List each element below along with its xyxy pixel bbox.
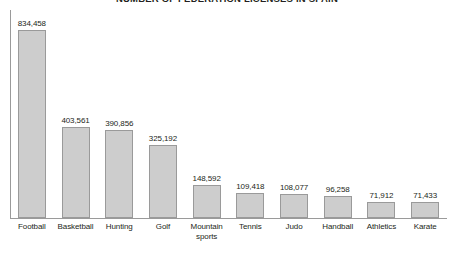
bar-group: 834,458: [10, 8, 54, 218]
x-axis-label-line: Football: [10, 222, 54, 232]
x-axis-label: Tennis: [229, 222, 273, 232]
x-axis-label-line: sports: [185, 232, 229, 242]
bar: [149, 145, 177, 218]
x-axis-label: Judo: [272, 222, 316, 232]
bar-series: 834,458403,561390,856325,192148,592109,4…: [10, 8, 447, 219]
x-axis-label: Athletics: [360, 222, 404, 232]
plot-area: 834,458403,561390,856325,192148,592109,4…: [0, 8, 454, 219]
x-axis-label-line: Golf: [141, 222, 185, 232]
bar-group: 71,912: [360, 8, 404, 218]
bar: [411, 202, 439, 218]
bar-value-label: 109,418: [236, 182, 264, 191]
bar-value-label: 96,258: [326, 185, 350, 194]
x-axis-label: Handball: [316, 222, 360, 232]
bar-value-label: 108,077: [280, 183, 308, 192]
bar-value-label: 71,912: [370, 191, 394, 200]
x-axis-label-line: Judo: [272, 222, 316, 232]
x-axis-label-line: Mountain: [185, 222, 229, 232]
chart-title: NUMBER OF FEDERATION LICENSES IN SPAIN: [0, 0, 454, 2]
bar: [236, 193, 264, 218]
x-axis-category-labels: FootballBasketballHuntingGolfMountainspo…: [10, 222, 447, 252]
bar-group: 390,856: [97, 8, 141, 218]
bar-value-label: 148,592: [193, 174, 221, 183]
bar-value-label: 390,856: [105, 119, 133, 128]
x-axis-label-line: Tennis: [229, 222, 273, 232]
bar-group: 148,592: [185, 8, 229, 218]
bar-group: 325,192: [141, 8, 185, 218]
x-axis-label-line: Basketball: [54, 222, 98, 232]
bar: [193, 185, 221, 218]
x-axis-label-line: Hunting: [97, 222, 141, 232]
x-axis-label: Hunting: [97, 222, 141, 232]
x-axis-label-line: Athletics: [360, 222, 404, 232]
x-axis-label: Basketball: [54, 222, 98, 232]
x-axis-label: Football: [10, 222, 54, 232]
bar-group: 108,077: [272, 8, 316, 218]
bar-value-label: 325,192: [149, 134, 177, 143]
bar: [105, 130, 133, 218]
bar: [62, 127, 90, 218]
bar-chart: NUMBER OF FEDERATION LICENSES IN SPAIN 8…: [0, 0, 454, 255]
bar-group: 96,258: [316, 8, 360, 218]
bar-group: 403,561: [54, 8, 98, 218]
x-axis-label-line: Handball: [316, 222, 360, 232]
x-axis-label: Mountainsports: [185, 222, 229, 241]
bar: [324, 196, 352, 218]
bar: [280, 194, 308, 218]
bar: [18, 30, 46, 218]
bar-value-label: 834,458: [18, 19, 46, 28]
bar-value-label: 403,561: [61, 116, 89, 125]
bar-value-label: 71,433: [413, 191, 437, 200]
bar: [367, 202, 395, 218]
x-axis-label: Golf: [141, 222, 185, 232]
bar-group: 109,418: [229, 8, 273, 218]
bar-group: 71,433: [403, 8, 447, 218]
x-axis-label-line: Karate: [403, 222, 447, 232]
x-axis-label: Karate: [403, 222, 447, 232]
